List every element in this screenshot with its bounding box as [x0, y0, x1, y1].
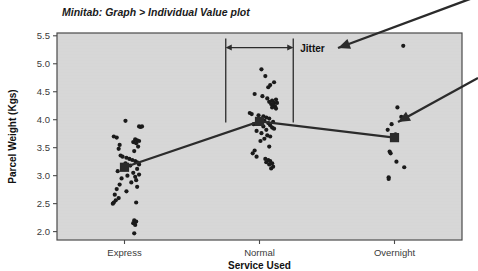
x-axis: ExpressNormalOvernight	[107, 240, 415, 258]
data-point	[134, 178, 138, 182]
data-point	[129, 180, 133, 184]
data-point	[118, 143, 122, 147]
data-point	[124, 189, 128, 193]
data-point	[259, 67, 263, 71]
y-axis-tick-label: 5.5	[37, 30, 50, 41]
chart-canvas: 2.02.53.03.54.04.55.05.5Parcel Weight (K…	[0, 0, 478, 271]
data-point	[137, 172, 141, 176]
data-point	[120, 155, 124, 159]
y-axis-tick-label: 5.0	[37, 58, 50, 69]
data-point	[134, 200, 138, 204]
y-axis-tick-label: 3.5	[37, 142, 50, 153]
data-point	[389, 151, 393, 155]
data-point	[111, 202, 115, 206]
x-axis-tick-label: Overnight	[374, 247, 416, 258]
data-point	[132, 231, 136, 235]
y-axis-tick-label: 4.5	[37, 86, 50, 97]
data-point	[135, 167, 139, 171]
data-point	[254, 155, 258, 159]
data-point	[260, 94, 264, 98]
data-point	[262, 137, 266, 141]
data-point	[125, 174, 129, 178]
data-point	[118, 183, 122, 187]
data-point	[132, 149, 136, 153]
data-point	[254, 129, 258, 133]
y-axis-title: Parcel Weight (Kgs)	[7, 89, 18, 183]
data-point	[136, 144, 140, 148]
data-point	[394, 160, 398, 164]
mean-marker-overnight	[390, 133, 399, 142]
data-point	[401, 44, 405, 48]
data-point	[115, 136, 119, 140]
data-point	[123, 119, 127, 123]
data-point	[259, 131, 263, 135]
y-axis-tick-label: 3.0	[37, 170, 50, 181]
data-point	[250, 112, 254, 116]
data-point	[135, 185, 139, 189]
data-point	[267, 162, 271, 166]
data-point	[113, 193, 117, 197]
data-point	[275, 101, 279, 105]
y-axis: 2.02.53.03.54.04.55.05.5	[37, 30, 57, 237]
data-point	[131, 171, 135, 175]
data-point	[266, 85, 270, 89]
data-point	[387, 177, 391, 181]
data-point	[272, 127, 276, 131]
data-point	[115, 187, 119, 191]
data-point	[395, 105, 399, 109]
data-point	[274, 106, 278, 110]
data-point	[119, 176, 123, 180]
data-point	[117, 147, 121, 151]
x-axis-tick-label: Normal	[244, 247, 275, 258]
data-point	[258, 139, 262, 143]
data-point	[389, 122, 393, 126]
data-point	[263, 74, 267, 78]
data-point	[267, 144, 271, 148]
data-point	[386, 128, 390, 132]
data-point	[251, 151, 255, 155]
mean-marker-express	[120, 163, 129, 172]
y-axis-tick-label: 2.0	[37, 226, 50, 237]
mean-marker-normal	[255, 117, 264, 126]
jitter-label: Jitter	[300, 43, 325, 54]
data-point	[268, 134, 272, 138]
individual-value-plot-figure: 2.02.53.03.54.04.55.05.5Parcel Weight (K…	[0, 0, 478, 271]
data-point	[264, 128, 268, 132]
x-axis-title: Service Used	[228, 260, 291, 271]
data-point	[256, 113, 260, 117]
data-point	[116, 169, 120, 173]
data-point	[253, 92, 257, 96]
data-point	[272, 80, 276, 84]
data-point	[270, 105, 274, 109]
data-point	[133, 223, 137, 227]
x-axis-tick-label: Express	[107, 247, 142, 258]
data-point	[140, 124, 144, 128]
y-axis-tick-label: 4.0	[37, 114, 50, 125]
chart-title: Minitab: Graph > Individual Value plot	[62, 6, 250, 18]
data-point	[402, 165, 406, 169]
y-axis-tick-label: 2.5	[37, 198, 50, 209]
data-point	[269, 166, 273, 170]
data-point	[267, 117, 271, 121]
